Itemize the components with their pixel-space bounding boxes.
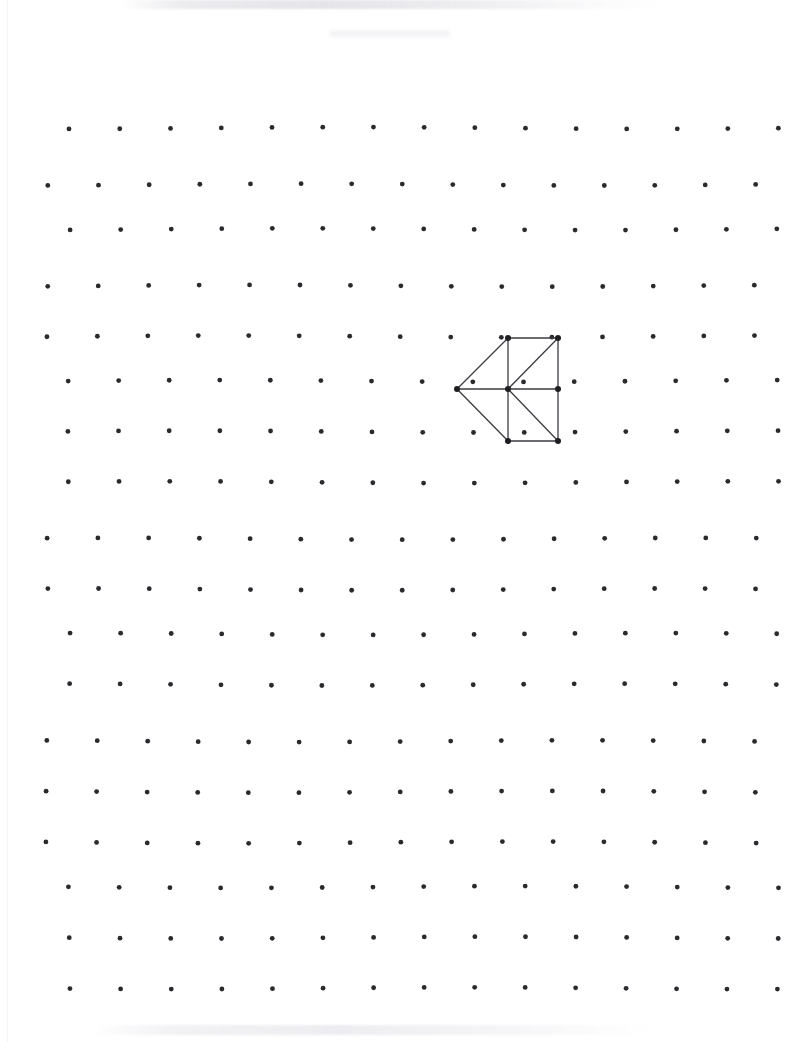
grid-dot <box>116 378 121 383</box>
grid-dot <box>370 430 375 435</box>
grid-dot <box>623 228 628 233</box>
figure-edge-diagonal <box>508 338 558 389</box>
grid-dot <box>196 739 201 744</box>
grid-dot <box>702 789 707 794</box>
grid-dot <box>523 126 528 131</box>
grid-dot <box>501 183 506 188</box>
grid-dot <box>297 841 302 846</box>
grid-dot <box>147 182 152 187</box>
grid-dot <box>217 428 222 433</box>
grid-dot <box>118 631 123 636</box>
grid-dot <box>724 378 729 383</box>
grid-dot <box>196 333 201 338</box>
grid-dot <box>521 379 526 384</box>
grid-dot <box>347 334 352 339</box>
grid-dot <box>319 683 324 688</box>
grid-dot <box>118 936 123 941</box>
grid-dot <box>449 839 454 844</box>
grid-dot <box>725 126 730 131</box>
grid-dot <box>420 379 425 384</box>
grid-dot <box>753 182 758 187</box>
grid-dot <box>674 986 679 991</box>
grid-dot <box>675 936 680 941</box>
figure-vertex-top_left <box>505 335 511 341</box>
grid-dot <box>169 987 174 992</box>
grid-dot <box>269 683 274 688</box>
grid-dot <box>674 429 679 434</box>
grid-dot <box>602 183 607 188</box>
grid-dot <box>118 227 123 232</box>
grid-dot <box>551 587 556 592</box>
grid-dot <box>67 681 72 686</box>
grid-dot <box>145 333 150 338</box>
grid-dot <box>246 740 251 745</box>
figure-vertex-bottom_left <box>505 438 511 444</box>
grid-dot <box>298 283 303 288</box>
grid-dot <box>268 429 273 434</box>
grid-dot <box>117 885 122 890</box>
grid-dot <box>349 537 354 542</box>
grid-dot <box>219 226 224 231</box>
grid-dot <box>169 631 174 636</box>
grid-dot <box>499 284 504 289</box>
grid-dot <box>168 126 173 131</box>
grid-dot <box>371 985 376 990</box>
grid-dot <box>167 479 172 484</box>
grid-dot <box>775 378 780 383</box>
grid-dot <box>624 935 629 940</box>
grid-dot <box>523 480 528 485</box>
grid-dot <box>116 429 121 434</box>
grid-dot <box>472 884 477 889</box>
grid-dot <box>725 479 730 484</box>
grid-dot <box>400 537 405 542</box>
grid-dot <box>501 587 506 592</box>
grid-dot <box>248 181 253 186</box>
grid-dot <box>66 379 71 384</box>
grid-dot <box>68 631 73 636</box>
grid-dot <box>168 682 173 687</box>
grid-dot <box>398 840 403 845</box>
grid-dot <box>319 429 324 434</box>
grid-dot <box>602 536 607 541</box>
grid-dot <box>246 790 251 795</box>
grid-dot <box>754 841 759 846</box>
grid-dot <box>725 936 730 941</box>
worksheet-canvas <box>0 0 787 1042</box>
grid-dot <box>723 682 728 687</box>
grid-dot <box>117 126 122 131</box>
grid-dot <box>45 334 50 339</box>
grid-dot <box>219 936 224 941</box>
grid-dot <box>550 738 555 743</box>
grid-dot <box>624 480 629 485</box>
grid-dot <box>673 681 678 686</box>
grid-dot <box>66 479 71 484</box>
grid-dot <box>471 430 476 435</box>
grid-dot <box>67 935 72 940</box>
grid-dot <box>600 284 605 289</box>
grid-dot <box>501 537 506 542</box>
grid-dot <box>472 632 477 637</box>
grid-dot <box>422 985 427 990</box>
grid-dot <box>753 587 758 592</box>
grid-dot <box>601 789 606 794</box>
grid-dot <box>219 632 224 637</box>
grid-dot <box>371 125 376 130</box>
grid-dot <box>653 536 658 541</box>
grid-dot <box>197 283 202 288</box>
grid-dot <box>522 430 527 435</box>
grid-dot <box>45 284 50 289</box>
grid-dot <box>197 536 202 541</box>
grid-dot <box>450 182 455 187</box>
grid-dot <box>270 632 275 637</box>
grid-dot <box>651 789 656 794</box>
grid-dot <box>775 987 780 992</box>
grid-dot <box>752 739 757 744</box>
grid-dot <box>398 283 403 288</box>
grid-dot <box>66 884 71 889</box>
grid-dot <box>752 333 757 338</box>
grid-dot <box>118 682 123 687</box>
figure-vertex-bottom_right <box>555 438 561 444</box>
grid-dot <box>400 182 405 187</box>
grid-dot <box>370 480 375 485</box>
grid-dot <box>94 840 99 845</box>
